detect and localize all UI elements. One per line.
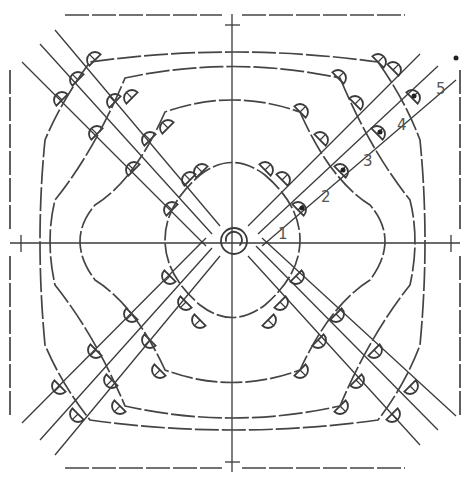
round-label-4: 4	[397, 116, 407, 134]
magic-ring-icon	[221, 228, 247, 254]
chain-rounds	[10, 15, 460, 468]
round-label-2: 2	[321, 188, 331, 206]
round-label-1: 1	[278, 225, 288, 243]
round-label-3: 3	[363, 152, 373, 170]
round-label-5: 5	[436, 80, 446, 98]
stitch-bumps	[49, 49, 424, 426]
crochet-chart: 1 2 3 4 5	[0, 0, 470, 482]
